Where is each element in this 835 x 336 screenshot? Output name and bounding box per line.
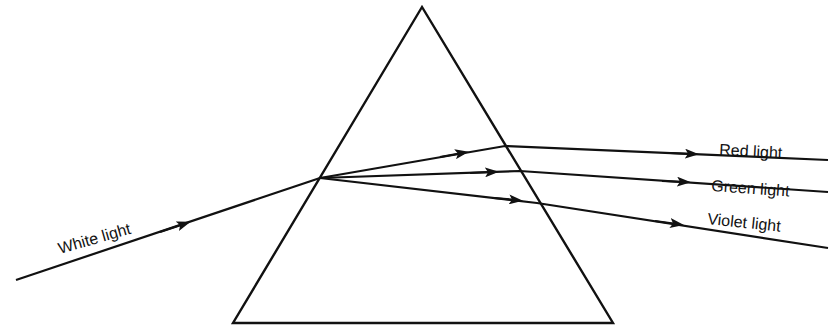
arrow-icon	[655, 221, 677, 224]
arrow-icon	[160, 224, 184, 232]
arrow-icon	[494, 198, 516, 200]
prism-dispersion-diagram: White light Red light Green light Violet…	[0, 0, 835, 336]
arrow-icon	[470, 172, 492, 173]
arrow-icon	[670, 153, 692, 154]
arrow-icon	[662, 181, 684, 182]
incident-ray-white	[16, 178, 320, 280]
label-red-light: Red light	[719, 141, 784, 161]
label-green-light: Green light	[711, 177, 791, 199]
prism-triangle	[233, 7, 613, 323]
label-white-light: White light	[56, 220, 133, 257]
